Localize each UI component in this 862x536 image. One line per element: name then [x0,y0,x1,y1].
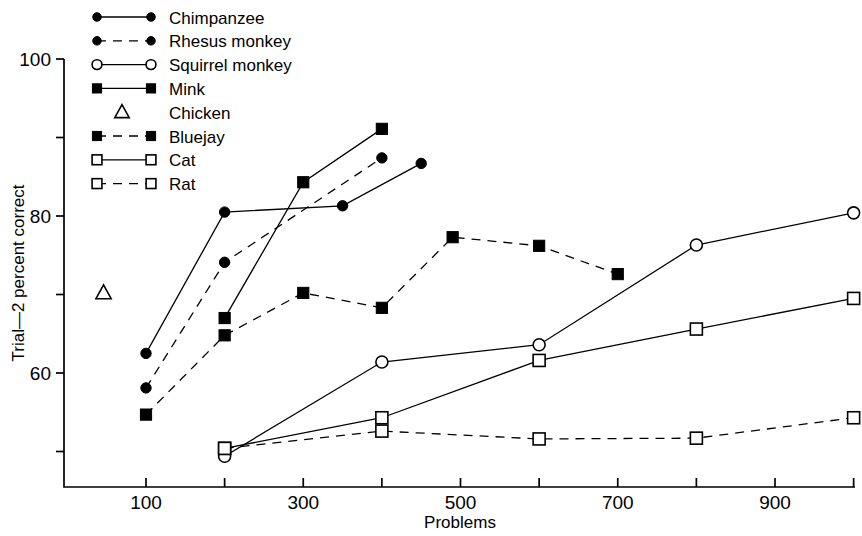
legend-item-mink[interactable]: Mink [92,80,205,99]
data-point [298,287,309,298]
x-tick-label: 300 [287,492,319,513]
line-chart-canvas: 6080100 100300500700900 Trial—2 percent … [0,0,862,536]
legend-label: Mink [169,80,205,99]
legend-marker [146,84,155,93]
legend-marker [146,131,155,140]
data-point [219,312,230,323]
series-rat [219,412,860,455]
legend-marker [147,13,156,22]
legend-item-squirrel-monkey[interactable]: Squirrel monkey [92,56,292,75]
legend-item-chicken[interactable]: Chicken [115,104,231,123]
legend-marker [92,131,101,140]
legend-item-bluejay[interactable]: Bluejay [92,128,225,147]
legend-item-rat[interactable]: Rat [92,175,196,194]
x-tick-label: 100 [130,492,162,513]
legend-label: Bluejay [169,128,225,147]
data-point [377,153,387,163]
legend-marker [146,60,156,70]
axis-lines [64,59,855,487]
legend-marker [93,13,102,22]
data-point [141,383,151,393]
chart-figure: 6080100 100300500700900 Trial—2 percent … [0,0,862,536]
data-point [219,207,229,217]
data-point [141,348,151,358]
legend-item-rhesus-monkey[interactable]: Rhesus monkey [93,32,292,51]
x-axis-title: Problems [424,513,496,532]
y-tick-label: 60 [30,363,51,384]
legend-marker [93,37,102,46]
series-line [146,237,618,414]
data-point [690,432,702,444]
legend-marker [146,179,156,189]
data-point [534,240,545,251]
x-axis-ticks [146,478,854,487]
data-point [298,177,309,188]
x-tick-label: 900 [759,492,791,513]
data-point [376,356,388,368]
data-point [140,409,151,420]
data-point [533,339,545,351]
legend-label: Chicken [169,104,230,123]
data-point [690,239,702,251]
data-point [376,412,388,424]
legend-marker [115,105,129,118]
legend-marker [92,84,101,93]
data-point [337,201,347,211]
data-point [219,442,231,454]
data-point [690,323,702,335]
y-tick-label: 100 [19,49,51,70]
data-point [416,158,426,168]
y-axis-title: Trial—2 percent correct [9,184,28,361]
series-line [225,298,854,448]
series-chicken [96,285,111,299]
legend-label: Cat [169,151,196,170]
chart-legend: ChimpanzeeRhesus monkeySquirrel monkeyMi… [92,9,292,195]
data-point [848,412,860,424]
x-axis-tick-labels: 100300500700900 [130,492,791,513]
axes-group: 6080100 100300500700900 [19,49,855,513]
data-point [219,330,230,341]
legend-marker [146,155,156,165]
data-point [533,354,545,366]
x-tick-label: 500 [445,492,477,513]
data-series-group [96,123,860,462]
legend-marker [92,155,102,165]
legend-label: Chimpanzee [169,9,264,28]
data-point [848,292,860,304]
data-point [533,433,545,445]
y-tick-label: 80 [30,206,51,227]
legend-marker [147,37,156,46]
legend-item-cat[interactable]: Cat [92,151,196,170]
legend-item-chimpanzee[interactable]: Chimpanzee [93,9,265,28]
data-point [612,268,623,279]
data-point [376,302,387,313]
data-point [447,232,458,243]
data-point [376,425,388,437]
data-point [376,123,387,134]
legend-marker [92,179,102,189]
x-tick-label: 700 [602,492,634,513]
y-axis-ticks [56,59,64,452]
legend-marker [92,60,102,70]
data-point [219,257,229,267]
series-bluejay [140,232,623,421]
data-point [96,285,111,299]
legend-label: Squirrel monkey [169,56,292,75]
data-point [848,207,860,219]
legend-label: Rat [169,175,196,194]
legend-label: Rhesus monkey [169,32,291,51]
series-cat [219,292,860,454]
